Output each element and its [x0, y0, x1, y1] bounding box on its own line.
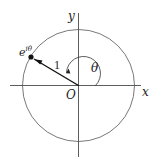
unit-circle-diagram: y x O 1 θ eiθ: [0, 0, 155, 162]
point-e-i-theta: [28, 54, 33, 59]
x-axis-label: x: [142, 85, 149, 99]
point-label-exponent: iθ: [26, 45, 33, 53]
radius-label: 1: [54, 58, 60, 72]
origin-label: O: [66, 88, 76, 102]
y-axis-label: y: [67, 9, 75, 23]
angle-label: θ: [91, 61, 99, 75]
